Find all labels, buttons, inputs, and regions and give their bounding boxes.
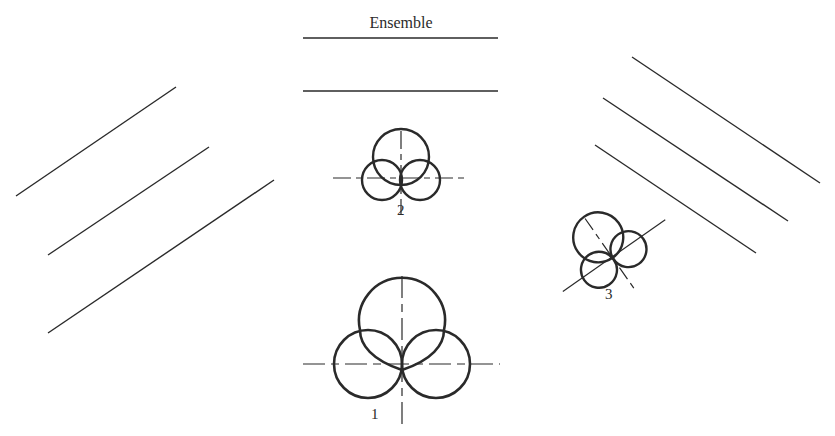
polar-diagram-3 (535, 180, 689, 325)
ensemble-title: Ensemble (0, 14, 802, 32)
diagram-2-label: 2 (397, 202, 405, 219)
right-diagonal-lines (595, 57, 820, 253)
polar-diagram-1 (303, 276, 500, 425)
diagram-1-label: 1 (371, 406, 379, 423)
diagram-3-label: 3 (605, 286, 613, 303)
left-diagonal-lines (16, 87, 274, 333)
diagram-canvas (0, 0, 835, 436)
